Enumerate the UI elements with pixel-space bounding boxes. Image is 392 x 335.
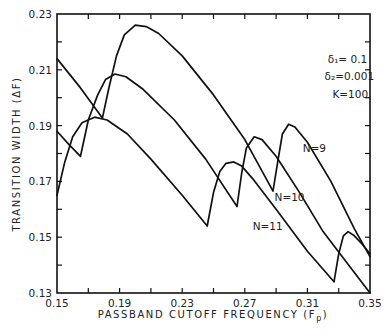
- y-tick-label: 0.17: [29, 175, 52, 187]
- chart: 0.150.190.230.270.310.35 0.130.150.170.1…: [0, 0, 392, 335]
- series-label: N=9: [303, 142, 326, 154]
- x-axis-title: PASSBAND CUTOFF FREQUENCY (Fp): [98, 309, 329, 323]
- y-tick-label: 0.21: [29, 64, 52, 76]
- x-tick-label: 0.23: [171, 297, 194, 309]
- curve-n10: [57, 74, 370, 293]
- x-tick-label: 0.31: [296, 297, 319, 309]
- y-tick-label: 0.23: [29, 8, 52, 20]
- y-tick-label: 0.15: [29, 231, 52, 243]
- curves-group: [57, 25, 370, 293]
- x-tick-label: 0.27: [233, 297, 256, 309]
- x-tick-label: 0.35: [358, 297, 381, 309]
- x-tick-label: 0.19: [108, 297, 131, 309]
- parameter-annotation: δ₂=0.001: [325, 70, 375, 82]
- y-tick-labels: 0.130.150.170.190.210.23: [29, 8, 52, 299]
- y-tick-label: 0.13: [29, 287, 52, 299]
- parameter-annotation: δ₁= 0.1: [328, 53, 367, 65]
- curve-n9: [57, 25, 370, 257]
- x-tick-labels: 0.150.190.230.270.310.35: [45, 297, 381, 309]
- y-axis-title: TRANSITION WIDTH (ΔF): [11, 76, 22, 232]
- parameter-annotation: K=100: [332, 88, 368, 100]
- series-label: N=10: [275, 191, 305, 203]
- series-label: N=11: [253, 220, 283, 232]
- annotations: δ₁= 0.1δ₂=0.001K=100: [325, 53, 375, 100]
- y-tick-label: 0.19: [29, 120, 52, 132]
